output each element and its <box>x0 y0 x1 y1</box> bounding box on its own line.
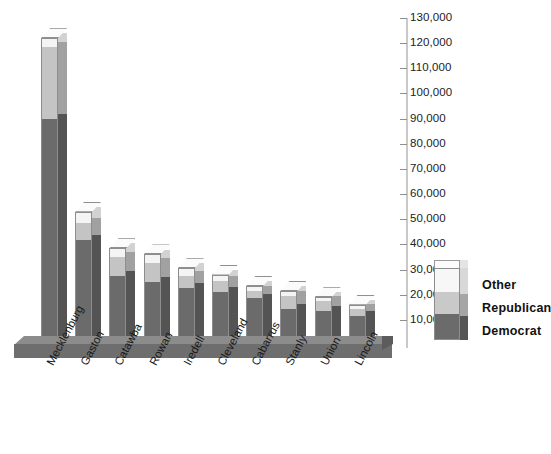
bar-segment-other <box>212 275 229 281</box>
bar-rowan <box>144 254 161 345</box>
bar-side-republican <box>297 291 306 304</box>
bar-segment-republican <box>178 276 195 289</box>
bar-segment-republican <box>144 263 161 282</box>
y-tick <box>400 144 407 145</box>
legend-bar-outline <box>434 268 460 340</box>
bar-segment-democrat <box>109 276 126 345</box>
bar-segment-republican <box>212 281 229 292</box>
bar-segment-other <box>246 286 263 291</box>
bar-segment-republican <box>109 257 126 276</box>
bar-catawba <box>109 248 126 345</box>
bar-side-republican <box>263 286 272 294</box>
y-tick <box>400 119 407 120</box>
legend-label-democrat: Democrat <box>482 324 541 338</box>
bar-segment-republican <box>75 223 92 240</box>
legend-side-democrat <box>460 316 468 340</box>
bar-segment-democrat <box>41 119 58 345</box>
bar-side-republican <box>229 276 238 287</box>
y-tick <box>400 194 407 195</box>
bar-segment-republican <box>246 291 263 299</box>
bar-side-republican <box>126 252 135 271</box>
bar-side-republican <box>332 296 341 306</box>
y-tick-label: 130,000 <box>410 12 452 24</box>
bar-segment-other <box>41 38 58 47</box>
bar-segment-republican <box>349 309 366 317</box>
bar-side-democrat <box>58 114 67 340</box>
y-tick-label: 40,000 <box>410 238 446 250</box>
bar-side-democrat <box>195 283 204 340</box>
y-tick <box>400 93 407 94</box>
y-tick-label: 50,000 <box>410 213 446 225</box>
y-tick <box>400 244 407 245</box>
bar-side-republican <box>92 218 101 235</box>
bar-mecklenburg <box>41 38 58 345</box>
y-tick <box>400 18 407 19</box>
bar-cleveland <box>212 275 229 345</box>
bar-segment-other <box>315 297 332 301</box>
y-tick-label: 60,000 <box>410 188 446 200</box>
bar-segment-republican <box>41 47 58 119</box>
bar-segment-other <box>109 248 126 257</box>
bar-segment-other <box>280 291 297 296</box>
y-tick <box>400 295 407 296</box>
legend-label-other: Other <box>482 278 516 292</box>
legend-side-republican <box>460 294 468 316</box>
bar-side-republican <box>161 258 170 277</box>
bar-segment-other <box>75 212 92 223</box>
y-tick-label: 110,000 <box>410 62 451 74</box>
y-tick-label: 120,000 <box>410 37 452 49</box>
legend-sample-bar <box>434 268 460 340</box>
bar-side-republican <box>195 271 204 284</box>
bar-segment-republican <box>315 301 332 311</box>
y-tick-label: 80,000 <box>410 138 446 150</box>
bar-segment-democrat <box>144 282 161 345</box>
legend-side-other <box>460 268 468 294</box>
bar-segment-other <box>349 305 366 309</box>
bar-segment-republican <box>280 296 297 309</box>
bar-side-republican <box>58 42 67 114</box>
y-tick <box>400 270 407 271</box>
y-tick-label: 70,000 <box>410 163 446 175</box>
bar-side-republican <box>366 304 375 312</box>
y-tick <box>400 320 407 321</box>
bar-segment-other <box>178 268 195 276</box>
y-tick <box>400 68 407 69</box>
bar-side-democrat <box>92 235 101 340</box>
legend-label-republican: Republican <box>482 301 551 315</box>
y-tick <box>400 43 407 44</box>
y-tick <box>400 169 407 170</box>
bar-gaston <box>75 212 92 345</box>
bar-segment-other <box>144 254 161 263</box>
bar-segment-democrat <box>75 240 92 345</box>
y-tick-label: 90,000 <box>410 113 446 125</box>
bar-iredell <box>178 268 195 345</box>
y-tick-label: 100,000 <box>410 87 452 99</box>
y-tick <box>400 219 407 220</box>
